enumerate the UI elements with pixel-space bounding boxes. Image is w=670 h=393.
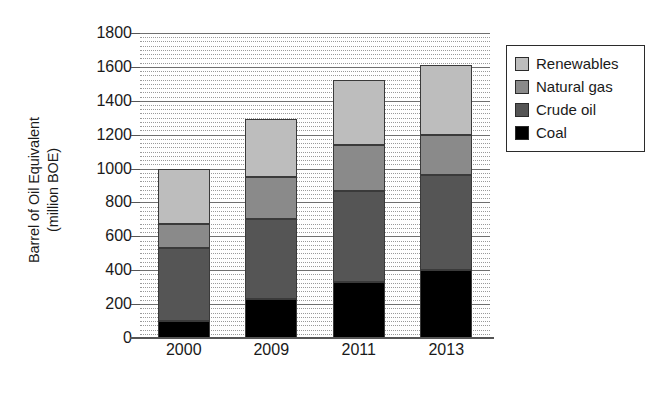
bar-group <box>245 33 297 338</box>
plot-area <box>140 33 490 338</box>
bar-segment-coal <box>333 282 385 338</box>
y-axis-tick-label: 200 <box>76 296 132 312</box>
y-axis-tick-label: 1800 <box>76 25 132 41</box>
legend-label: Crude oil <box>536 102 596 117</box>
bar-segment-renewables <box>333 80 385 144</box>
y-axis-tick-mark <box>131 270 140 271</box>
bar-group <box>420 33 472 338</box>
y-axis-tick-label: 800 <box>76 194 132 210</box>
y-axis-title-line-2: (million BOE) <box>44 148 63 232</box>
x-axis-tick-label: 2009 <box>226 342 316 358</box>
legend-item: Renewables <box>515 52 637 75</box>
legend-swatch-icon <box>515 57 529 71</box>
bar-segment-renewables <box>245 119 297 177</box>
bar-group <box>333 33 385 338</box>
legend-item: Crude oil <box>515 98 637 121</box>
y-axis-tick-mark <box>131 67 140 68</box>
bar-segment-crude-oil <box>420 175 472 270</box>
legend-swatch-icon <box>515 80 529 94</box>
bar-segment-crude-oil <box>158 248 210 321</box>
x-axis-tick-labels: 2000200920112013 <box>140 342 490 366</box>
bar-segment-coal <box>158 321 210 338</box>
y-axis-tick-mark <box>131 101 140 102</box>
bar-segment-crude-oil <box>245 219 297 299</box>
bar-segment-crude-oil <box>333 191 385 283</box>
y-axis-tick-mark <box>131 33 140 34</box>
y-axis-tick-mark <box>131 135 140 136</box>
y-axis-tick-label: 400 <box>76 262 132 278</box>
bar-segment-renewables <box>420 65 472 134</box>
y-axis-tick-mark <box>131 169 140 170</box>
legend-item: Coal <box>515 121 637 144</box>
legend-swatch-icon <box>515 126 529 140</box>
stacked-bar-chart: Barrel of Oil Equivalent (million BOE) 0… <box>0 0 670 393</box>
y-axis-tick-label: 1200 <box>76 127 132 143</box>
y-axis-tick-label: 1600 <box>76 59 132 75</box>
bar-segment-natural-gas <box>333 145 385 191</box>
y-axis-tick-mark <box>131 236 140 237</box>
x-axis-tick-label: 2000 <box>139 342 229 358</box>
x-axis-tick-label: 2011 <box>314 342 404 358</box>
bar-segment-renewables <box>158 169 210 225</box>
legend-label: Natural gas <box>536 79 613 94</box>
bar-segment-coal <box>245 299 297 338</box>
y-axis-tick-label: 600 <box>76 228 132 244</box>
y-axis-tick-labels: 020040060080010001200140016001800 <box>72 33 132 338</box>
y-axis-title-line-1: Barrel of Oil Equivalent <box>25 117 44 263</box>
y-axis-tick-mark <box>131 202 140 203</box>
x-axis-line <box>130 337 494 339</box>
bar-segment-natural-gas <box>158 224 210 248</box>
legend-label: Renewables <box>536 56 619 71</box>
legend-label: Coal <box>536 125 567 140</box>
legend-swatch-icon <box>515 103 529 117</box>
chart-legend: RenewablesNatural gasCrude oilCoal <box>506 45 645 152</box>
y-axis-tick-label: 0 <box>76 330 132 346</box>
y-axis-tick-label: 1400 <box>76 93 132 109</box>
bar-segment-coal <box>420 270 472 338</box>
bar-group <box>158 33 210 338</box>
legend-item: Natural gas <box>515 75 637 98</box>
y-axis-tick-mark <box>131 304 140 305</box>
y-axis-tick-label: 1000 <box>76 161 132 177</box>
y-axis-title: Barrel of Oil Equivalent (million BOE) <box>22 60 66 320</box>
bar-segment-natural-gas <box>245 177 297 219</box>
bar-segment-natural-gas <box>420 135 472 176</box>
x-axis-tick-label: 2013 <box>401 342 491 358</box>
